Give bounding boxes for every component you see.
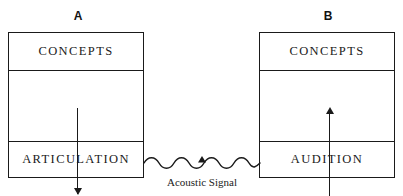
section-label-concepts-a: CONCEPTS [9,33,143,70]
arrow-down-icon-a [74,188,82,195]
section-label-articulation: ARTICULATION [9,141,143,177]
acoustic-signal-caption: Acoustic Signal [143,176,261,188]
section-label-audition: AUDITION [260,141,394,177]
panel-label-b: B [313,10,343,22]
speaker-box-b: CONCEPTS AUDITION [259,32,395,178]
section-label-concepts-b: CONCEPTS [260,33,394,70]
middle-zone-a [9,70,143,141]
speaker-box-a: CONCEPTS ARTICULATION [8,32,144,178]
arrow-up-icon-b [326,107,334,114]
acoustic-signal-wave-icon [142,152,262,174]
diagram-canvas: A B CONCEPTS ARTICULATION CONCEPTS AUDIT… [0,0,403,196]
panel-label-a: A [63,10,93,22]
middle-zone-b [260,70,394,141]
